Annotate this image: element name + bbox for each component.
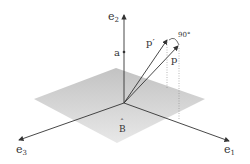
diagram-canvas: e2 a p′ p 90° B ˆ e3 e1 — [0, 0, 250, 164]
label-B-hat-accent: ˆ — [120, 118, 124, 127]
label-p-prime: p′ — [146, 37, 155, 48]
label-e2: e2 — [108, 10, 119, 24]
label-angle: 90° — [178, 31, 190, 39]
label-a: a — [114, 47, 120, 58]
label-e1: e1 — [224, 143, 235, 157]
point-a — [123, 51, 126, 54]
label-e3: e3 — [16, 143, 27, 157]
label-p: p — [171, 54, 177, 65]
angle-arc — [169, 38, 179, 45]
